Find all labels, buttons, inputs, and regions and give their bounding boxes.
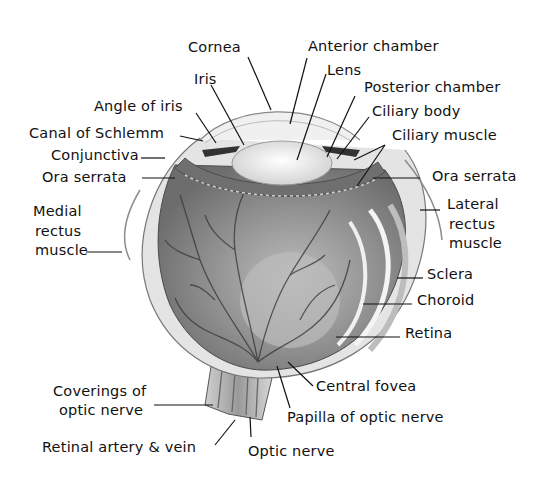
label-medial-rectus-line3: muscle (35, 242, 88, 259)
label-choroid: Choroid (417, 292, 474, 309)
label-medial-rectus-line2: rectus (35, 223, 81, 240)
label-retina: Retina (405, 325, 452, 342)
label-angle-of-iris: Angle of iris (94, 98, 183, 115)
eye-anatomy-diagram: Cornea Iris Angle of iris Canal of Schle… (0, 0, 555, 481)
label-ciliary-muscle: Ciliary muscle (392, 127, 497, 144)
label-lens: Lens (327, 62, 361, 79)
label-retinal-artery-vein: Retinal artery & vein (42, 439, 196, 456)
label-ora-serrata-left: Ora serrata (42, 169, 127, 186)
label-posterior-chamber: Posterior chamber (364, 79, 500, 96)
label-lateral-rectus-line2: rectus (449, 216, 495, 233)
lens-shape (232, 141, 332, 185)
label-coverings-line2: optic nerve (59, 402, 143, 419)
label-anterior-chamber: Anterior chamber (308, 38, 439, 55)
label-medial-rectus-line1: Medial (33, 203, 82, 220)
label-cornea: Cornea (188, 39, 241, 56)
label-iris: Iris (194, 71, 217, 88)
label-sclera: Sclera (427, 266, 473, 283)
label-optic-nerve: Optic nerve (248, 443, 335, 460)
label-canal-of-schlemm: Canal of Schlemm (29, 125, 164, 142)
label-ciliary-body: Ciliary body (372, 103, 461, 120)
label-ora-serrata-right: Ora serrata (432, 168, 517, 185)
label-lateral-rectus-line1: Lateral (447, 196, 499, 213)
label-central-fovea: Central fovea (316, 378, 416, 395)
label-coverings-line1: Coverings of (53, 383, 146, 400)
label-conjunctiva: Conjunctiva (51, 147, 139, 164)
label-lateral-rectus-line3: muscle (449, 235, 502, 252)
label-papilla-of-optic-nerve: Papilla of optic nerve (287, 409, 444, 426)
